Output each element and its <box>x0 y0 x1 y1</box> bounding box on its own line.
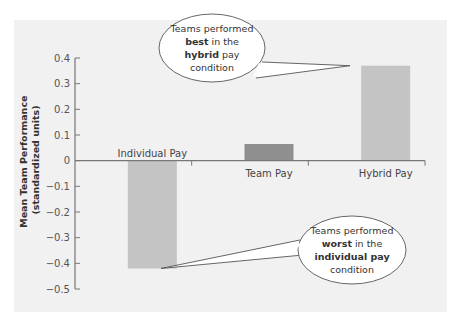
bar-chart: 0.40.30.20.10−0.1−0.2−0.3−0.4−0.5 Indivi… <box>0 0 460 329</box>
callout-text-line: hybrid pay <box>185 49 240 60</box>
x-category-label: Individual Pay <box>118 148 188 159</box>
callout-text-line: worst in the <box>322 238 383 249</box>
callout-emphasis: individual pay <box>314 251 390 262</box>
y-tick-label: 0.4 <box>54 53 70 64</box>
callout-best-hybrid: Teams performedbest in thehybrid paycond… <box>159 14 350 82</box>
callout-text-span: pay <box>219 49 240 60</box>
y-tick-label: −0.4 <box>46 258 70 269</box>
callout-text-line: individual pay <box>314 251 390 262</box>
callout-text-span: in the <box>352 238 382 249</box>
bar-team-pay <box>245 144 294 161</box>
callout-text-span: condition <box>190 62 234 73</box>
y-axis-title: Mean Team Performance (standardized unit… <box>18 92 41 228</box>
callout-text-span: Teams performed <box>170 23 254 34</box>
callout-text-span: condition <box>330 264 374 275</box>
x-category-label: Team Pay <box>244 168 292 179</box>
y-tick-label: −0.2 <box>46 207 70 218</box>
y-axis: 0.40.30.20.10−0.1−0.2−0.3−0.4−0.5 <box>46 53 80 295</box>
y-axis-title-main: Mean Team Performance <box>18 96 29 228</box>
callout-text-line: Teams performed <box>310 225 394 236</box>
y-tick-label: 0.1 <box>54 130 70 141</box>
y-tick-label: 0.3 <box>54 78 70 89</box>
y-tick-label: −0.3 <box>46 232 70 243</box>
callout-emphasis: best <box>185 36 209 47</box>
callout-text-line: best in the <box>185 36 239 47</box>
callout-text-span: Teams performed <box>310 225 394 236</box>
bar-hybrid-pay <box>361 66 410 161</box>
callout-text-line: condition <box>190 62 234 73</box>
y-tick-label: −0.5 <box>46 284 70 295</box>
bar-individual-pay <box>128 161 177 269</box>
callout-pointer <box>256 62 350 78</box>
callout-text-span: in the <box>209 36 239 47</box>
callout-emphasis: hybrid <box>185 49 220 60</box>
callout-text-line: condition <box>330 264 374 275</box>
callout-pointer <box>161 240 303 268</box>
callout-worst-individual: Teams performedworst in theindividual pa… <box>161 216 406 284</box>
y-tick-label: 0 <box>64 155 70 166</box>
y-tick-label: −0.1 <box>46 181 70 192</box>
x-category-label: Hybrid Pay <box>359 168 413 179</box>
y-tick-label: 0.2 <box>54 104 70 115</box>
callout-text-line: Teams performed <box>170 23 254 34</box>
y-axis-title-sub: (standardized units) <box>30 105 41 214</box>
callout-emphasis: worst <box>322 238 353 249</box>
